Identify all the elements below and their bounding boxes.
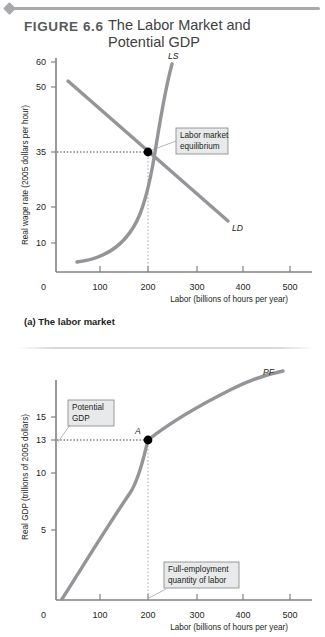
full-employment-callout-line-1: Full-employment (168, 565, 229, 574)
x-tick-label-200-bottom: 200 (140, 610, 155, 620)
x-ticks-bottom: 100 200 300 400 500 (92, 594, 297, 620)
equilibrium-callout-line-2: equilibrium (180, 142, 220, 151)
y-axis-title-top: Real wage rate (2005 dollars per hour) (21, 105, 30, 245)
y-tick-label-20: 20 (36, 202, 46, 212)
equilibrium-point-marker (144, 148, 153, 157)
y-tick-label-15: 15 (36, 412, 46, 422)
x-tick-label-500: 500 (282, 282, 297, 292)
point-a-label: A (134, 426, 141, 436)
y-tick-label-10: 10 (36, 468, 46, 478)
x-axis-title-bottom: Labor (billions of hours per year) (170, 623, 288, 632)
chart-labor-market: Real wage rate (2005 dollars per hour) 6… (0, 0, 325, 310)
y-tick-label-35: 35 (36, 147, 46, 157)
full-employment-callout-line-2: quantity of labor (168, 576, 227, 585)
y-ticks-top: 60 50 35 20 10 0 (36, 57, 56, 292)
x-tick-label-400: 400 (235, 282, 250, 292)
chart-potential-gdp: Real GDP (trillions of 2005 dollars) 15 … (0, 347, 325, 637)
x-tick-label-100: 100 (92, 282, 107, 292)
x-tick-label-200: 200 (140, 282, 155, 292)
full-employment-callout-leader (149, 589, 166, 598)
x-tick-label-400-bottom: 400 (235, 610, 250, 620)
x-tick-label-300-bottom: 300 (189, 610, 204, 620)
x-ticks-top: 100 200 300 400 500 (92, 266, 297, 292)
panel-a-caption: (a) The labor market (24, 316, 115, 327)
potential-gdp-callout-line-1: Potential (72, 403, 104, 412)
y-tick-label-10: 10 (36, 238, 46, 248)
y-tick-label-60: 60 (36, 57, 46, 67)
x-axis-title-top: Labor (billions of hours per year) (170, 295, 288, 304)
y-tick-label-0: 0 (41, 282, 46, 292)
x-tick-label-500-bottom: 500 (282, 610, 297, 620)
y-tick-label-13: 13 (36, 435, 46, 445)
labor-demand-curve-label: LD (232, 223, 243, 233)
y-tick-label-50: 50 (36, 82, 46, 92)
potential-gdp-callout-leader (58, 425, 70, 442)
x-tick-label-100-bottom: 100 (92, 610, 107, 620)
equilibrium-callout-line-1: Labor market (180, 131, 229, 140)
point-a-marker (144, 436, 153, 445)
x-tick-label-300: 300 (189, 282, 204, 292)
y-axis-title-bottom: Real GDP (trillions of 2005 dollars) (21, 414, 30, 540)
labor-supply-curve (77, 64, 172, 262)
figure-page: FIGURE 6.6 The Labor Market and Potentia… (0, 0, 325, 637)
potential-gdp-callout-line-2: GDP (72, 414, 90, 423)
y-ticks-bottom: 15 13 10 5 0 (36, 412, 56, 620)
y-tick-label-5: 5 (41, 525, 46, 535)
production-function-curve-label: PF (263, 367, 275, 377)
labor-supply-curve-label: LS (168, 51, 179, 61)
y-tick-label-0-bottom: 0 (41, 610, 46, 620)
